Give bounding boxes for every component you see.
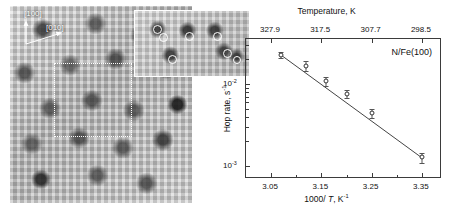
top-tick-label: 317.5 [310,25,330,34]
error-bar-cap [369,109,374,110]
data-point [279,52,284,57]
x-axis-title-exponent: -1 [344,193,349,199]
top-tick-label: 307.7 [361,25,381,34]
x-axis-title-prefix: 1000/ [304,194,328,204]
data-point [344,91,349,96]
x-axis-title-suffix: , K [333,194,343,204]
atom-marker-circle [185,32,194,41]
data-point [419,155,424,160]
atom-marker-circle [168,55,177,64]
y-tick-label: 10-3 [223,160,237,171]
data-point [369,111,374,116]
error-bar-cap [324,86,329,87]
y-tick-exponent: -3 [232,160,237,166]
error-bar-cap [419,163,424,164]
error-bar-cap [304,71,309,72]
arrhenius-chart-panel: Temperature, K Hop rate, s-1 1000/ T, K-… [200,0,453,217]
x-tick-label: 3.05 [262,182,278,191]
y-tick-mantissa: 10 [223,79,232,88]
x-tick-label: 3.25 [363,182,379,191]
error-bar-cap [419,153,424,154]
crystal-direction-marker: [100] [010] [16,10,94,56]
inset-region-marker [54,63,132,137]
y-tick-mantissa: 10 [223,162,232,171]
top-tick-label: 327.9 [260,25,280,34]
top-tick-label: 298.5 [411,25,431,34]
data-point [304,63,309,68]
error-bar-cap [369,118,374,119]
data-point [324,79,329,84]
y-axis-title-text: Hop rate, s [222,90,232,132]
error-bar-cap [304,61,309,62]
stm-image-panel: [100] [010] [10,6,192,203]
x-tick-label: 3.15 [313,182,329,191]
top-axis-title: Temperature, K [297,6,355,16]
error-bar-cap [324,77,329,78]
plot-frame: N/Fe(100) [245,38,441,178]
error-bar-cap [279,58,284,59]
plot-area [246,39,440,177]
atom-marker-circle [159,33,168,42]
arrhenius-fit-line [246,39,442,179]
direction-arrows-icon [16,10,94,56]
y-axis-title: Hop rate, s-1 [221,85,232,132]
x-tick-label: 3.35 [413,182,429,191]
error-bar-cap [344,98,349,99]
y-tick-exponent: -2 [232,78,237,84]
y-tick-label: 10-2 [223,78,237,89]
x-axis-title: 1000/ T, K-1 [304,193,348,204]
